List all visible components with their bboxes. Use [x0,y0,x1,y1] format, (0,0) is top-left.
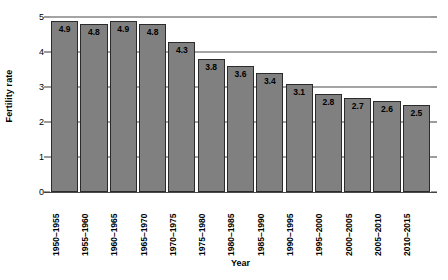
y-tick-mark [44,192,50,193]
x-axis-title: Year [50,258,431,268]
x-tick-label: 2010–2015 [402,213,412,256]
x-tick-label-slot: 1985–1990 [255,194,284,256]
y-tick-mark-right [431,52,437,53]
y-axis-title-text: Fertility rate [4,70,14,123]
bar[interactable]: 3.8 [198,59,225,192]
x-tick-label-slot: 1955–1960 [79,194,108,256]
bar[interactable]: 2.5 [403,105,430,193]
bar-value-label: 4.9 [111,25,136,34]
bar-value-label: 2.6 [374,105,399,114]
x-tick-label-slot: 1960–1965 [109,194,138,256]
x-tick-label-slot: 2000–2005 [343,194,372,256]
bar[interactable]: 3.4 [256,73,283,192]
bar-value-label: 2.7 [345,102,370,111]
x-axis-baseline [44,192,437,193]
y-tick-mark [44,17,50,18]
fertility-rate-bar-chart: Fertility rate 012345 4.94.84.94.84.33.8… [0,0,448,280]
x-axis-tick-labels: 1950–19551955–19601960–19651965–19701970… [50,194,431,256]
bar-value-label: 3.6 [228,70,253,79]
y-tick-mark-right [431,192,437,193]
y-tick-mark [44,157,50,158]
bar[interactable]: 4.9 [51,21,78,193]
bars-layer: 4.94.84.94.84.33.83.63.43.12.82.72.62.5 [50,17,431,192]
x-tick-label: 1985–1990 [256,213,266,256]
y-tick-label: 3 [22,83,44,92]
x-tick-label-slot: 1995–2000 [314,194,343,256]
bar[interactable]: 4.3 [168,42,195,193]
bar-value-label: 3.8 [199,63,224,72]
bar[interactable]: 4.8 [139,24,166,192]
y-tick-label: 4 [22,48,44,57]
bar-value-label: 4.3 [169,46,194,55]
x-tick-label-slot: 2010–2015 [402,194,431,256]
x-tick-label: 1995–2000 [314,213,324,256]
y-axis-title: Fertility rate [0,0,18,192]
bar[interactable]: 3.1 [286,84,313,193]
x-tick-label: 1980–1985 [226,213,236,256]
bar-value-label: 3.1 [287,88,312,97]
bar[interactable]: 2.8 [315,94,342,192]
x-tick-label-slot: 1980–1985 [226,194,255,256]
bar-value-label: 3.4 [257,77,282,86]
x-tick-label-slot: 1975–1980 [197,194,226,256]
bar[interactable]: 2.7 [344,98,371,193]
y-tick-mark [44,87,50,88]
y-tick-label: 5 [22,13,44,22]
x-tick-label-slot: 1990–1995 [284,194,313,256]
y-tick-mark-right [431,17,437,18]
bar[interactable]: 4.8 [80,24,107,192]
y-axis-tick-labels: 012345 [18,0,44,280]
x-tick-label: 1955–1960 [80,213,90,256]
bar-value-label: 4.8 [140,28,165,37]
y-tick-mark-right [431,122,437,123]
y-tick-label: 2 [22,118,44,127]
y-tick-label: 0 [22,188,44,197]
x-tick-label-slot: 1965–1970 [138,194,167,256]
x-tick-label: 2005–2010 [373,213,383,256]
x-tick-label: 1990–1995 [285,213,295,256]
bar[interactable]: 4.9 [110,21,137,193]
bar[interactable]: 3.6 [227,66,254,192]
bar[interactable]: 2.6 [373,101,400,192]
x-tick-label: 1960–1965 [109,213,119,256]
bar-value-label: 2.8 [316,98,341,107]
x-tick-label: 1965–1970 [139,213,149,256]
y-tick-mark-right [431,157,437,158]
y-tick-label: 1 [22,153,44,162]
x-tick-label-slot: 1970–1975 [167,194,196,256]
y-tick-mark-right [431,87,437,88]
bar-value-label: 2.5 [404,109,429,118]
y-tick-mark [44,122,50,123]
x-tick-label-slot: 2005–2010 [372,194,401,256]
y-tick-mark [44,52,50,53]
x-tick-label: 2000–2005 [344,213,354,256]
x-tick-label: 1975–1980 [197,213,207,256]
x-tick-label: 1950–1955 [51,213,61,256]
x-tick-label-slot: 1950–1955 [50,194,79,256]
bar-value-label: 4.9 [52,25,77,34]
x-tick-label: 1970–1975 [168,213,178,256]
bar-value-label: 4.8 [81,28,106,37]
